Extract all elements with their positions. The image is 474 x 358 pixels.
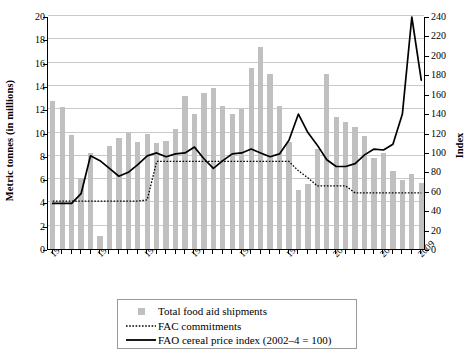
- y-axis-left-tick-label: 16: [23, 59, 45, 69]
- x-axis-tick-mark: [279, 250, 280, 254]
- y-axis-left-tick-label: 0: [23, 245, 45, 255]
- y-axis-left-tick-label: 14: [23, 82, 45, 92]
- y-axis-right-tick-label: 20: [431, 226, 455, 236]
- x-axis-tick-mark: [184, 250, 185, 254]
- x-axis-tick-mark: [118, 250, 119, 254]
- chart-figure: Metric tonnes (in millions) Index 024681…: [0, 0, 474, 358]
- y-axis-left-tick-mark: [43, 250, 47, 251]
- y-axis-right-title-text: Index: [455, 132, 466, 158]
- chart-legend: Total food aid shipments FAC commitments…: [117, 299, 357, 349]
- y-axis-left-tick-label: 2: [23, 222, 45, 232]
- x-axis-tick-mark: [108, 250, 109, 254]
- x-axis-tick-mark: [203, 250, 204, 254]
- x-axis-tick-mark: [401, 250, 402, 254]
- x-axis-tick-mark: [90, 250, 91, 254]
- y-axis-left-tick-label: 20: [23, 12, 45, 22]
- legend-item-total-food-aid-shipments: Total food aid shipments: [124, 304, 350, 319]
- y-axis-left-tick-label: 6: [23, 175, 45, 185]
- y-axis-left-title-text: Metric tonnes (in millions): [5, 79, 16, 200]
- x-axis-tick-mark: [137, 250, 138, 254]
- x-axis-tick-mark: [411, 250, 412, 254]
- legend-solid-line-icon: [124, 336, 158, 344]
- x-axis-tick-mark: [250, 250, 251, 254]
- x-axis-tick-mark: [222, 250, 223, 254]
- legend-label-fao-cereal-price-index: FAO cereal price index (2002–4 = 100): [158, 334, 331, 346]
- legend-label-total-food-aid-shipments: Total food aid shipments: [158, 305, 267, 317]
- x-axis-tick-mark: [307, 250, 308, 254]
- x-axis-tick-mark: [61, 250, 62, 254]
- y-axis-left-tick-label: 12: [23, 105, 45, 115]
- x-axis-tick-mark: [316, 250, 317, 254]
- x-axis-tick-mark: [364, 250, 365, 254]
- x-axis-tick-mark: [326, 250, 327, 254]
- x-axis-tick-mark: [156, 250, 157, 254]
- x-axis-tick-mark: [392, 250, 393, 254]
- y-axis-right-tick-label: 160: [431, 90, 455, 100]
- x-axis-tick-mark: [297, 250, 298, 254]
- x-axis-tick-mark: [212, 250, 213, 254]
- x-axis-tick-mark: [175, 250, 176, 254]
- y-axis-right-tick-label: 240: [431, 12, 455, 22]
- y-axis-left-tick-label: 18: [23, 35, 45, 45]
- x-axis-tick-mark: [71, 250, 72, 254]
- y-axis-right-tick-label: 80: [431, 167, 455, 177]
- x-axis-tick-mark: [373, 250, 374, 254]
- x-axis-tick-mark: [269, 250, 270, 254]
- y-axis-left-tick-label: 10: [23, 129, 45, 139]
- y-axis-right-tick-label: 220: [431, 31, 455, 41]
- legend-swatch-bar-icon: [124, 308, 158, 315]
- line-fao-cereal-price-index: [53, 17, 422, 203]
- x-axis-tick-mark: [165, 250, 166, 254]
- y-axis-left-title: Metric tonnes (in millions): [2, 40, 18, 240]
- line-series-layer: [48, 17, 426, 250]
- y-axis-right-tick-label: 200: [431, 51, 455, 61]
- y-axis-right-tick-label: 180: [431, 70, 455, 80]
- legend-item-fao-cereal-price-index: FAO cereal price index (2002–4 = 100): [124, 333, 350, 348]
- y-axis-right-tick-label: 140: [431, 109, 455, 119]
- x-axis-tick-mark: [127, 250, 128, 254]
- x-axis-tick-mark: [260, 250, 261, 254]
- legend-label-fac-commitments: FAC commitments: [158, 320, 241, 332]
- y-axis-left-tick-label: 4: [23, 198, 45, 208]
- y-axis-right-tick-label: 120: [431, 129, 455, 139]
- x-axis-tick-mark: [354, 250, 355, 254]
- y-axis-right-tick-label: 40: [431, 206, 455, 216]
- x-axis-tick-mark: [80, 250, 81, 254]
- y-axis-right-tick-label: 60: [431, 187, 455, 197]
- legend-item-fac-commitments: FAC commitments: [124, 319, 350, 334]
- x-axis-tick-mark: [345, 250, 346, 254]
- x-axis-tick-mark: [231, 250, 232, 254]
- y-axis-left-tick-label: 8: [23, 152, 45, 162]
- gridline: [48, 15, 424, 16]
- legend-dotted-line-icon: [124, 322, 158, 330]
- y-axis-right-tick-label: 100: [431, 148, 455, 158]
- plot-area: [47, 17, 425, 250]
